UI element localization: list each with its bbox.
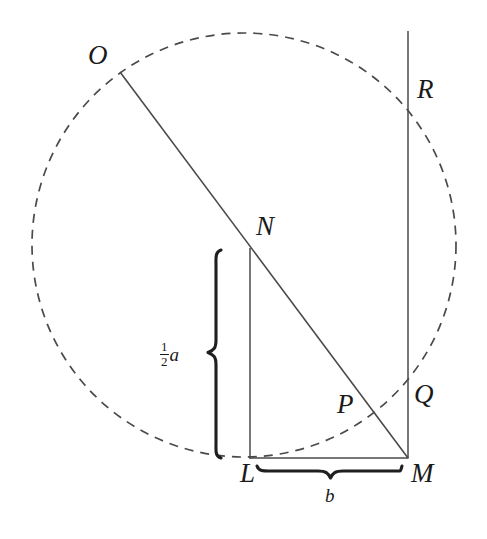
point-label-P: P <box>337 391 354 418</box>
fraction-denominator: 2 <box>160 355 169 369</box>
fraction-one-half: 1 2 <box>160 340 169 368</box>
point-label-N: N <box>256 213 274 240</box>
point-label-O: O <box>88 42 108 69</box>
measure-variable-a: a <box>170 344 180 365</box>
segment-O-M <box>120 72 408 458</box>
geometry-figure: O R N P Q L M 1 2 a b <box>0 0 487 539</box>
measure-label-b: b <box>325 486 335 505</box>
fraction-numerator: 1 <box>160 340 169 355</box>
point-label-M: M <box>411 460 434 487</box>
brace-half-a <box>208 250 221 458</box>
point-label-Q: Q <box>414 381 434 408</box>
measure-label-half-a: 1 2 a <box>160 340 179 368</box>
brace-b <box>257 466 402 478</box>
dashed-circle <box>32 33 456 457</box>
point-label-R: R <box>417 76 434 103</box>
point-label-L: L <box>240 460 255 487</box>
